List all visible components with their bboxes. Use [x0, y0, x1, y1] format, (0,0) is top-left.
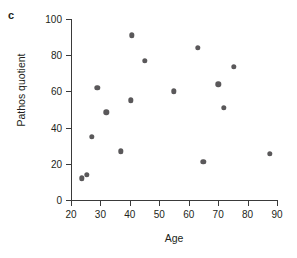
plot-area: 020406080100 2030405060708090 — [71, 19, 277, 200]
data-point — [84, 172, 89, 177]
y-tick: 80 — [66, 55, 71, 56]
x-tick-label: 50 — [154, 209, 165, 220]
data-point — [221, 105, 226, 110]
y-tick: 100 — [66, 19, 71, 20]
y-tick-label: 40 — [51, 122, 62, 133]
x-tick-label: 70 — [213, 209, 224, 220]
data-point — [171, 89, 176, 94]
data-point — [79, 176, 84, 181]
data-point — [201, 159, 206, 164]
y-tick-label: 20 — [51, 158, 62, 169]
x-tick — [159, 201, 160, 206]
x-axis-label: Age — [71, 232, 277, 244]
data-point — [95, 85, 100, 90]
x-tick — [277, 201, 278, 206]
y-tick-label: 80 — [51, 50, 62, 61]
x-tick — [130, 201, 131, 206]
x-tick — [218, 201, 219, 206]
y-tick-label: 0 — [56, 195, 62, 206]
y-tick-label: 60 — [51, 86, 62, 97]
y-tick: 40 — [66, 128, 71, 129]
data-point — [118, 148, 123, 153]
y-tick-label: 100 — [45, 14, 62, 25]
panel-letter: c — [8, 10, 14, 21]
x-tick-label: 20 — [65, 209, 76, 220]
x-tick-label: 30 — [95, 209, 106, 220]
data-point — [104, 110, 109, 115]
data-point — [129, 33, 134, 38]
data-point — [142, 58, 147, 63]
x-tick-label: 90 — [271, 209, 282, 220]
y-axis-label: Pathos quotient — [15, 35, 27, 145]
scatter-plot-figure: c Pathos quotient 020406080100 203040506… — [0, 0, 297, 258]
y-tick: 20 — [66, 164, 71, 165]
x-tick — [100, 201, 101, 206]
x-tick — [248, 201, 249, 206]
data-point — [231, 64, 236, 69]
x-tick-label: 40 — [124, 209, 135, 220]
data-point — [89, 134, 94, 139]
y-tick: 60 — [66, 91, 71, 92]
data-point — [215, 81, 220, 86]
data-point — [267, 151, 272, 156]
x-tick-label: 80 — [242, 209, 253, 220]
x-tick — [189, 201, 190, 206]
x-tick-label: 60 — [183, 209, 194, 220]
data-point — [195, 45, 200, 50]
x-tick — [71, 201, 72, 206]
y-axis-line — [71, 19, 72, 201]
data-point — [128, 98, 133, 103]
